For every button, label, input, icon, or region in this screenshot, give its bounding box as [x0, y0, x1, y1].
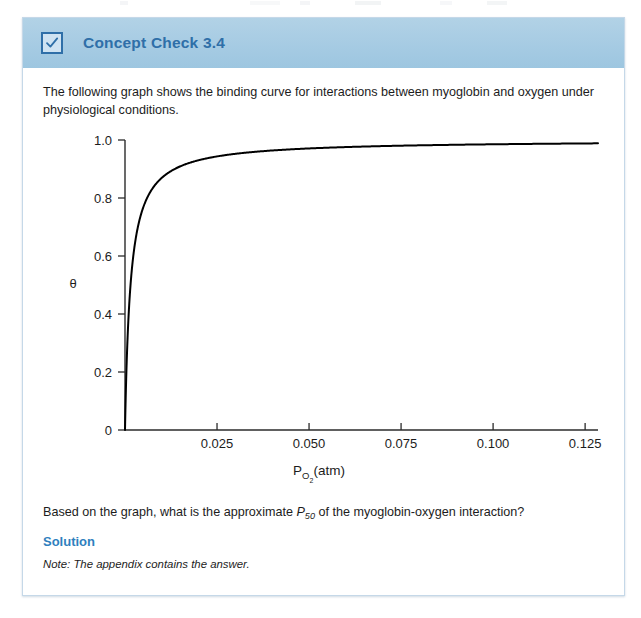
binding-curve-plot: 0.0250.0500.0750.1000.125 00.20.40.60.81… [43, 128, 606, 500]
x-tick-label: 0.050 [293, 436, 326, 451]
y-tick-label: 0.2 [94, 364, 112, 379]
binding-curve-figure: 0.0250.0500.0750.1000.125 00.20.40.60.81… [43, 128, 606, 500]
card-footer: Based on the graph, what is the approxim… [23, 504, 624, 570]
y-axis-tick-labels: 00.20.40.60.81.0 [94, 132, 112, 437]
question-suffix: of the myoglobin-oxygen interaction? [315, 505, 524, 519]
intro-paragraph: The following graph shows the binding cu… [43, 84, 599, 120]
note-text: Note: The appendix contains the answer. [43, 558, 604, 570]
x-axis-ticks [217, 423, 585, 430]
svg-text:PO2(atm): PO2(atm) [293, 463, 345, 484]
question-paragraph: Based on the graph, what is the approxim… [43, 504, 604, 522]
x-tick-label: 0.025 [201, 436, 234, 451]
x-axis-title: PO2(atm) [293, 463, 345, 484]
concept-check-card: Concept Check 3.4 The following graph sh… [22, 17, 625, 596]
y-tick-label: 0.8 [94, 190, 112, 205]
checkbox-checked-icon [41, 32, 63, 54]
binding-curve-path [125, 143, 598, 430]
card-body: The following graph shows the binding cu… [23, 68, 624, 500]
card-title: Concept Check 3.4 [83, 34, 225, 52]
x-tick-label: 0.100 [477, 436, 510, 451]
y-tick-label: 0.6 [94, 248, 112, 263]
y-axis-title: θ [69, 276, 76, 291]
y-tick-label: 1.0 [94, 132, 112, 147]
scan-artifact [0, 0, 641, 10]
x-tick-label: 0.125 [569, 436, 602, 451]
question-prefix: Based on the graph, what is the approxim… [43, 505, 296, 519]
x-axis-title-unit: (atm) [313, 463, 345, 478]
solution-heading: Solution [43, 534, 604, 549]
question-symbol-subscript: 50 [305, 510, 315, 520]
x-axis-title-main: P [293, 463, 302, 478]
question-symbol: P [296, 505, 304, 519]
x-axis-title-sub: O [302, 470, 309, 481]
y-axis-ticks [118, 140, 125, 430]
y-tick-label: 0.4 [94, 306, 112, 321]
x-tick-label: 0.075 [385, 436, 418, 451]
y-tick-label: 0 [105, 422, 112, 437]
plot-axes [125, 140, 598, 430]
card-header: Concept Check 3.4 [23, 18, 624, 68]
x-axis-tick-labels: 0.0250.0500.0750.1000.125 [201, 436, 602, 451]
